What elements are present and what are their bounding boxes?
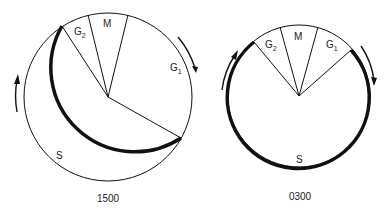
label-m: M	[294, 31, 302, 42]
s-phase-arc	[51, 26, 181, 152]
caption-0300: 0300	[289, 191, 312, 202]
s-phase-arc	[227, 42, 369, 169]
label-g2: G2	[265, 39, 277, 52]
arrow-clockwise-right	[361, 46, 374, 80]
cell-cycle-diagram-1500: G2 M G1 S 1500	[14, 13, 198, 204]
arrowhead-down-icon	[192, 66, 198, 73]
spoke-s-g1	[108, 97, 181, 138]
arrowhead-down-icon	[371, 77, 377, 86]
label-s: S	[56, 150, 63, 161]
spoke-s-g1	[299, 50, 351, 96]
arrowhead-up-icon	[14, 74, 20, 84]
label-g1: G1	[326, 39, 338, 52]
arrow-clockwise-left	[16, 80, 17, 112]
label-s: S	[296, 154, 303, 165]
label-g1: G1	[170, 62, 182, 75]
cell-cycle-diagram-0300: G2 M G1 S 0300	[222, 25, 377, 202]
arrow-clockwise-right	[178, 37, 195, 68]
cell-cycle-figure: G2 M G1 S 1500 G2 M G1 S 0300	[0, 0, 388, 214]
label-m: M	[103, 18, 111, 29]
caption-1500: 1500	[97, 193, 120, 204]
label-g2: G2	[74, 26, 86, 39]
